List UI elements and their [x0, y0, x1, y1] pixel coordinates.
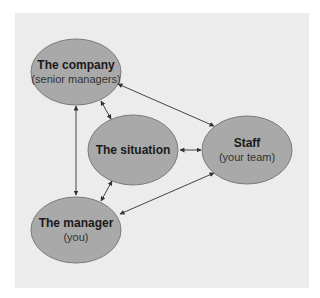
- node-title: The manager: [39, 216, 114, 230]
- node-subtitle: (your team): [219, 150, 275, 164]
- node-company: The company (senior managers): [31, 58, 120, 86]
- node-title: Staff: [219, 136, 275, 150]
- node-subtitle: (you): [39, 230, 114, 244]
- node-title: The company: [31, 58, 120, 72]
- edge-situation-manager: [101, 181, 112, 201]
- node-staff: Staff (your team): [219, 136, 275, 164]
- node-title: The situation: [96, 143, 171, 157]
- node-subtitle: (senior managers): [31, 72, 120, 86]
- node-situation: The situation: [96, 143, 171, 157]
- node-manager: The manager (you): [39, 216, 114, 244]
- edge-company-situation: [101, 101, 111, 119]
